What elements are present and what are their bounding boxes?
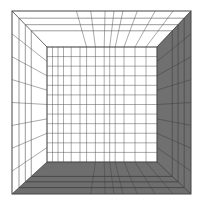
perspective-room-figure	[0, 0, 199, 212]
perspective-grid-svg	[0, 0, 199, 212]
